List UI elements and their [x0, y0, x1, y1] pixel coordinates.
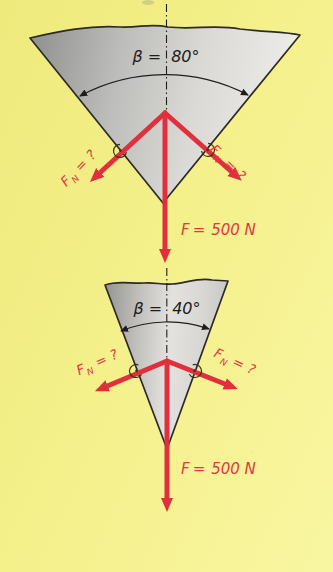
figure-canvas: β = 80° FN = ? FN = ? F = 500 N β = 40° … [0, 0, 333, 572]
beta-symbol: β [133, 47, 143, 66]
angle-label-top: β = 80° [133, 47, 200, 66]
applied-force-label-bottom: F = 500 N [181, 460, 256, 478]
page-artifact [142, 0, 154, 5]
angle-label-bottom: β = 40° [134, 299, 201, 318]
diagram-svg [0, 0, 333, 572]
beta-symbol: β [134, 299, 144, 318]
applied-force-label-top: F = 500 N [181, 221, 256, 239]
